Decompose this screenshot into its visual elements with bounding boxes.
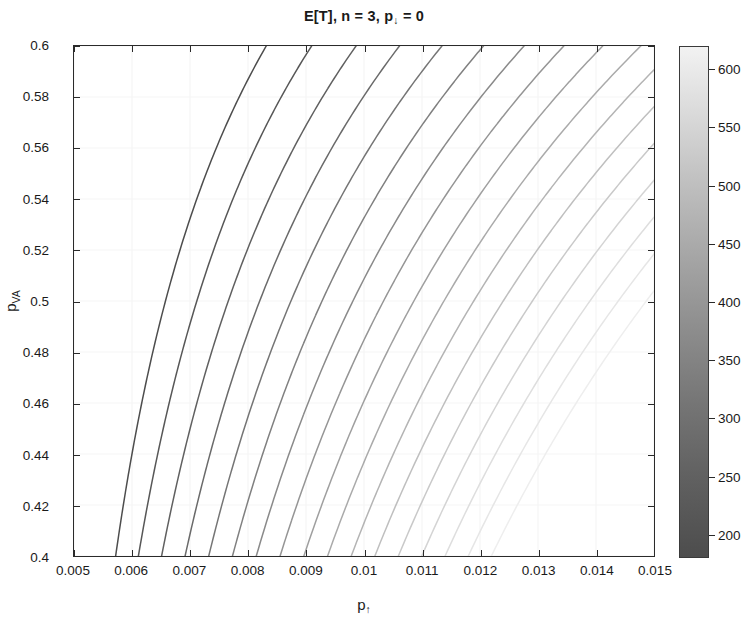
- x-tick-label: 0.014: [580, 563, 614, 578]
- y-tick-mark: [74, 302, 80, 303]
- colorbar-tick-label: 600: [718, 62, 741, 77]
- y-tick-label: 0.6: [30, 38, 49, 53]
- y-tick-mark: [648, 506, 654, 507]
- colorbar-tick-mark: [709, 418, 715, 419]
- y-tick-label: 0.42: [23, 498, 49, 513]
- contour-line-level-600: [491, 291, 654, 556]
- x-tick-mark: [423, 46, 424, 52]
- x-tick-mark: [248, 550, 249, 556]
- contour-line-level-475: [375, 107, 654, 556]
- x-tick-mark: [74, 550, 75, 556]
- x-tick-label: 0.008: [231, 563, 265, 578]
- x-tick-mark: [132, 46, 133, 52]
- x-tick-mark: [597, 46, 598, 52]
- colorbar-tick-mark: [709, 477, 715, 478]
- y-tick-mark: [648, 404, 654, 405]
- y-tick-label: 0.5: [30, 294, 49, 309]
- y-tick-mark: [74, 506, 80, 507]
- y-tick-mark: [648, 250, 654, 251]
- x-tick-mark: [190, 550, 191, 556]
- x-tick-label: 0.009: [289, 563, 323, 578]
- x-tick-mark: [306, 550, 307, 556]
- y-axis-label: pVA: [2, 290, 21, 312]
- x-tick-label: 0.012: [463, 563, 497, 578]
- contour-lines: [74, 46, 654, 556]
- y-tick-mark: [74, 353, 80, 354]
- y-tick-mark: [648, 455, 654, 456]
- y-tick-label: 0.56: [23, 140, 49, 155]
- y-tick-label: 0.48: [23, 345, 49, 360]
- title-suffix: = 0: [399, 8, 424, 24]
- x-tick-label: 0.015: [638, 563, 672, 578]
- page-title: E[T], n = 3, p↓ = 0: [73, 8, 655, 26]
- x-tick-label: 0.013: [522, 563, 556, 578]
- colorbar-tick-mark: [709, 186, 715, 187]
- x-tick-mark: [539, 46, 540, 52]
- x-tick-mark: [539, 550, 540, 556]
- colorbar-tick-mark: [709, 360, 715, 361]
- colorbar-tick-label: 400: [718, 295, 741, 310]
- contour-line-level-450: [351, 70, 654, 556]
- colorbar-tick-mark: [709, 69, 715, 70]
- x-tick-label: 0.01: [351, 563, 377, 578]
- colorbar-tick-label: 300: [718, 411, 741, 426]
- contour-figure: E[T], n = 3, p↓ = 0 0.40.420.440.460.480…: [0, 0, 743, 638]
- y-tick-mark: [74, 404, 80, 405]
- x-tick-mark: [365, 46, 366, 52]
- contour-line-level-500: [398, 144, 654, 556]
- colorbar-tick-label: 200: [718, 527, 741, 542]
- colorbar-tick-mark: [709, 127, 715, 128]
- x-tick-mark: [132, 550, 133, 556]
- y-tick-label: 0.4: [30, 550, 49, 565]
- y-tick-mark: [648, 148, 654, 149]
- colorbar-tick-label: 450: [718, 236, 741, 251]
- x-tick-mark: [597, 550, 598, 556]
- x-tick-mark: [190, 46, 191, 52]
- y-tick-mark: [74, 199, 80, 200]
- title-prefix: E[T], n = 3, p: [304, 8, 393, 24]
- x-tick-mark: [481, 46, 482, 52]
- colorbar-tick-label: 350: [718, 353, 741, 368]
- x-tick-mark: [423, 550, 424, 556]
- colorbar-tick-mark: [709, 302, 715, 303]
- plot-area: [73, 45, 655, 557]
- colorbar-tick-mark: [709, 535, 715, 536]
- x-tick-mark: [481, 550, 482, 556]
- x-tick-mark: [74, 46, 75, 52]
- x-tick-label: 0.005: [56, 563, 90, 578]
- x-tick-mark: [248, 46, 249, 52]
- y-tick-mark: [74, 97, 80, 98]
- x-tick-label: 0.007: [172, 563, 206, 578]
- x-tick-mark: [365, 550, 366, 556]
- y-axis-label-base: p: [2, 303, 19, 311]
- colorbar-tick-label: 500: [718, 178, 741, 193]
- colorbar-tick-label: 250: [718, 469, 741, 484]
- y-tick-label: 0.54: [23, 191, 49, 206]
- y-tick-mark: [74, 46, 80, 47]
- y-tick-mark: [648, 353, 654, 354]
- y-tick-mark: [648, 302, 654, 303]
- y-tick-mark: [648, 46, 654, 47]
- gridlines: [74, 46, 654, 556]
- colorbar-tick-mark: [709, 244, 715, 245]
- y-tick-mark: [74, 148, 80, 149]
- y-axis-label-subscript: VA: [10, 290, 22, 303]
- y-tick-mark: [74, 455, 80, 456]
- x-tick-mark: [306, 46, 307, 52]
- x-tick-label: 0.006: [114, 563, 148, 578]
- x-axis-label-subscript: ↑: [366, 603, 371, 615]
- x-tick-label: 0.011: [406, 563, 439, 578]
- colorbar: [679, 46, 709, 558]
- x-axis-label: p↑: [357, 596, 371, 615]
- y-tick-label: 0.58: [23, 89, 49, 104]
- y-tick-mark: [648, 199, 654, 200]
- y-tick-label: 0.44: [23, 447, 49, 462]
- y-tick-mark: [648, 97, 654, 98]
- colorbar-tick-label: 550: [718, 120, 741, 135]
- y-tick-label: 0.46: [23, 396, 49, 411]
- y-tick-label: 0.52: [23, 242, 49, 257]
- y-tick-mark: [74, 250, 80, 251]
